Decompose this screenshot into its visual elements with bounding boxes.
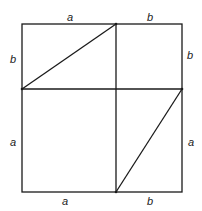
vertex-dot	[181, 88, 184, 91]
label-right-b: b	[187, 50, 193, 61]
label-top-b: b	[147, 12, 153, 23]
label-left-b: b	[10, 54, 16, 65]
label-bottom-a: a	[62, 196, 68, 207]
label-left-a: a	[10, 137, 16, 148]
top-left-rectangle-diagonal	[22, 24, 116, 89]
vertex-dot	[21, 88, 24, 91]
vertex-dot	[115, 23, 118, 26]
label-bottom-b: b	[147, 196, 153, 207]
label-right-a: a	[188, 137, 194, 148]
label-top-a: a	[67, 12, 73, 23]
vertex-dot	[115, 191, 118, 194]
bottom-right-rectangle-diagonal	[116, 89, 182, 192]
pythagorean-square-diagram	[0, 0, 202, 211]
outer-square	[22, 24, 182, 192]
